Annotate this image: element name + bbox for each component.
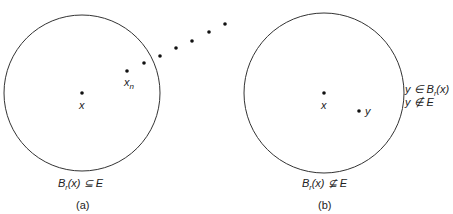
center-dot-a: [80, 91, 84, 95]
y-dot: [357, 109, 361, 113]
xn-label-sub: n: [130, 82, 134, 91]
y-label: y: [365, 106, 371, 117]
center-label-a: x: [79, 100, 85, 111]
center-dot-b: [322, 91, 326, 95]
side-line1-post: (x): [436, 83, 449, 95]
xn-label: xn: [124, 77, 134, 91]
ball-b-label: Br(x) ⊈ E: [302, 178, 347, 191]
caption-b: (b): [318, 200, 331, 211]
xn-dot: [125, 69, 129, 73]
side-line2: y ∉ E: [405, 97, 434, 108]
center-label-b: x: [321, 100, 327, 111]
figure: x xn Br(x) ⊆ E (a) x y y ∈ Br(x) y ∉ E B…: [0, 0, 453, 214]
sequence-dots: [142, 22, 227, 65]
ball-b-rest: (x) ⊈ E: [312, 177, 347, 189]
caption-a: (a): [76, 200, 89, 211]
ball-a-label: Br(x) ⊆ E: [58, 178, 103, 191]
ball-a-rest: (x) ⊆ E: [68, 177, 103, 189]
side-line1-pre: y ∈ B: [405, 83, 434, 95]
